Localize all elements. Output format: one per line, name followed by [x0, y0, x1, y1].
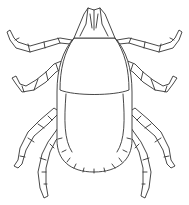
tick-body: [57, 8, 132, 173]
capitulum: [74, 8, 115, 38]
idiosoma: [57, 38, 132, 172]
tick-illustration: [0, 0, 189, 205]
